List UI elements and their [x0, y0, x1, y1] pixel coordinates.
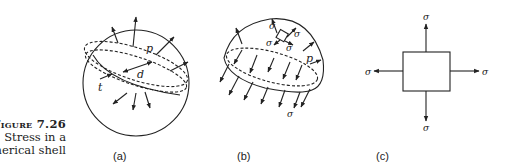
panel-a-label: (a) [113, 150, 126, 162]
equator-outer [80, 32, 193, 96]
element-square [403, 52, 450, 91]
figure-diagram: p d t (a) σ [0, 0, 506, 163]
label-sigma-top: σ [423, 12, 430, 22]
stress-arrows-c [374, 24, 479, 121]
pressure-arrows-a [112, 17, 188, 110]
label-sigma-b5: σ [287, 109, 294, 119]
label-d: d [137, 68, 144, 81]
label-sigma-right: σ [482, 67, 489, 77]
thickness-arrow [100, 74, 112, 79]
label-sigma-b3: σ [266, 38, 273, 48]
panel-c-element [374, 24, 479, 121]
label-sigma-bottom: σ [423, 123, 430, 133]
label-sigma-left: σ [365, 67, 372, 77]
label-sigma-b4: σ [286, 43, 293, 53]
label-t: t [98, 81, 103, 94]
panel-c-label: (c) [376, 150, 389, 162]
panel-b-label: (b) [237, 150, 250, 162]
label-p-a: p [146, 42, 153, 55]
pressure-arrows-b [220, 50, 310, 108]
label-p-b: p [306, 52, 313, 65]
label-sigma-b2: σ [294, 29, 301, 39]
stress-element [276, 30, 288, 42]
panel-a-sphere [80, 17, 193, 136]
label-sigma-b1: σ [269, 21, 276, 31]
